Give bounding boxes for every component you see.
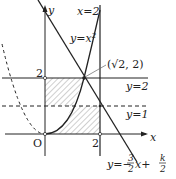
parabola-dashed-left — [2, 44, 45, 134]
y-tick-2: 2 — [36, 67, 43, 80]
point-leader-line — [85, 65, 106, 77]
label-y-equals-2: y=2 — [125, 80, 148, 93]
x-tick-2: 2 — [92, 137, 99, 150]
label-point: (√2, 2) — [107, 58, 144, 71]
svg-text:2: 2 — [127, 164, 134, 174]
label-x-equals-2: x=2 — [77, 5, 99, 18]
coordinate-diagram: y x O 2 2 x=2 y=x2 (√2, 2) y=2 y=1 y=− 3… — [0, 0, 176, 179]
y-axis-label: y — [47, 4, 55, 17]
label-y-equals-1: y=1 — [125, 108, 148, 121]
x-axis-label: x — [150, 131, 157, 144]
svg-text:x+: x+ — [135, 158, 150, 171]
svg-text:k: k — [160, 153, 165, 163]
svg-text:2: 2 — [159, 164, 166, 174]
label-line-equation: y=− 3 2 x+ k 2 — [106, 153, 166, 174]
origin-label: O — [33, 137, 42, 150]
svg-text:3: 3 — [128, 153, 134, 163]
